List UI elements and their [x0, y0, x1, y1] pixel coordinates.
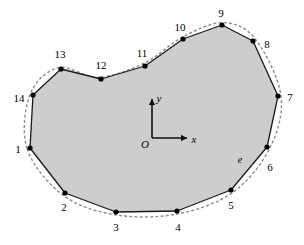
node-marker-6[interactable]	[264, 144, 269, 149]
polygon-region	[30, 25, 278, 212]
edge-label-e: e	[238, 155, 242, 165]
node-marker-10[interactable]	[180, 36, 185, 41]
node-label-5: 5	[228, 200, 234, 211]
node-label-14: 14	[14, 93, 25, 104]
node-label-8: 8	[264, 39, 270, 50]
axis-label-y: y	[157, 93, 162, 104]
node-label-3: 3	[113, 222, 119, 233]
node-marker-7[interactable]	[275, 93, 280, 98]
origin-label: O	[141, 139, 149, 150]
node-label-9: 9	[218, 8, 224, 19]
node-label-2: 2	[61, 202, 67, 213]
axis-label-x: x	[192, 134, 197, 145]
node-label-12: 12	[96, 60, 107, 71]
node-label-6: 6	[267, 162, 273, 173]
node-marker-3[interactable]	[113, 209, 118, 214]
node-label-11: 11	[137, 48, 148, 59]
polygon-diagram	[0, 0, 304, 245]
node-marker-11[interactable]	[142, 63, 147, 68]
node-label-1: 1	[15, 144, 21, 155]
node-marker-1[interactable]	[27, 145, 32, 150]
node-marker-13[interactable]	[58, 66, 63, 71]
node-marker-14[interactable]	[30, 92, 35, 97]
node-marker-8[interactable]	[250, 38, 255, 43]
node-label-10: 10	[175, 22, 186, 33]
node-label-7: 7	[287, 92, 293, 103]
polygon-outline	[30, 25, 278, 212]
figure-canvas: 1234567891011121314 x y O e	[0, 0, 304, 245]
node-label-13: 13	[55, 49, 66, 60]
node-label-4: 4	[175, 222, 181, 233]
node-marker-12[interactable]	[98, 76, 103, 81]
node-marker-4[interactable]	[174, 208, 179, 213]
node-marker-2[interactable]	[62, 190, 67, 195]
node-marker-5[interactable]	[228, 187, 233, 192]
node-marker-9[interactable]	[219, 22, 224, 27]
